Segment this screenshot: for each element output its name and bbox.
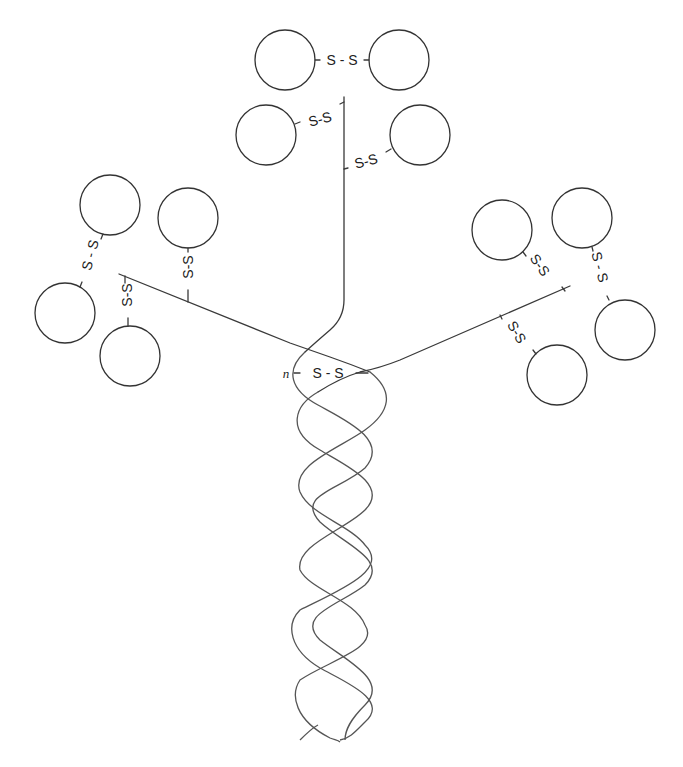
interchain-disulfide-label: S - S: [312, 365, 343, 381]
protein-structure-diagram: S - S S-S S-S S - S S-S S-S: [0, 0, 683, 767]
right-arm-chain: [318, 286, 570, 392]
globular-domain: [80, 175, 140, 235]
globular-domain: [390, 105, 450, 165]
disulfide-label: S-S: [180, 255, 196, 278]
helix-strand: [293, 352, 372, 740]
globular-domain: [472, 200, 532, 260]
disulfide-label: S-S: [119, 283, 135, 306]
left-arm: S - S S-S S-S: [35, 175, 370, 386]
globular-domain: [35, 283, 95, 343]
right-arm: S-S S - S S-S: [318, 188, 655, 405]
globular-domain: [369, 30, 429, 90]
globular-domain: [100, 326, 160, 386]
disulfide-label: S-S: [504, 318, 530, 346]
disulfide-label: S-S: [527, 251, 553, 279]
disulfide-label: S - S: [78, 238, 102, 272]
helix-strand: [295, 392, 372, 742]
top-arm-chain: [305, 97, 344, 352]
disulfide-label: S - S: [326, 52, 357, 68]
helix-strand-end: [300, 725, 318, 740]
globular-domain: [255, 30, 315, 90]
disulfide-label: S-S: [307, 108, 334, 129]
globular-domain: [595, 300, 655, 360]
globular-domain: [552, 188, 612, 248]
disulfide-label: S - S: [588, 250, 612, 284]
left-arm-chain: [119, 274, 370, 372]
triple-helix-stalk: [292, 352, 387, 742]
disulfide-label: S-S: [353, 150, 380, 171]
n-label: n: [283, 366, 290, 381]
top-arm: S - S S-S S-S: [236, 30, 450, 352]
helix-strand: [292, 372, 387, 740]
globular-domain: [236, 105, 296, 165]
globular-domain: [158, 188, 218, 248]
